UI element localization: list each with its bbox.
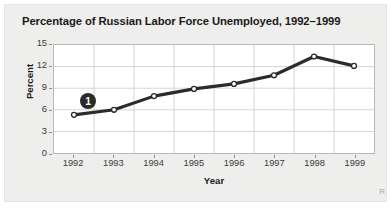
x-tick-mark [154, 155, 155, 158]
plot-area [53, 44, 375, 154]
data-series-line [54, 45, 374, 153]
y-tick-label: 3 [21, 126, 47, 136]
x-axis-label: Year [53, 175, 375, 186]
x-tick-label: 1995 [172, 158, 216, 168]
y-tick-label: 6 [21, 104, 47, 114]
y-tick-label: 9 [21, 82, 47, 92]
y-tick-mark [49, 88, 52, 89]
x-tick-label: 1998 [293, 158, 337, 168]
y-tick-label: 0 [21, 148, 47, 158]
y-tick-label: 12 [21, 60, 47, 70]
x-tick-label: 1994 [132, 158, 176, 168]
x-tick-label: 1999 [333, 158, 377, 168]
y-tick-label: 15 [21, 38, 47, 48]
x-tick-label: 1996 [212, 158, 256, 168]
x-tick-mark [73, 155, 74, 158]
y-tick-mark [49, 44, 52, 45]
corner-mark: R [379, 187, 385, 196]
y-tick-mark [49, 66, 52, 67]
y-tick-mark [49, 154, 52, 155]
y-tick-mark [49, 132, 52, 133]
x-tick-mark [355, 155, 356, 158]
chart-card: Percentage of Russian Labor Force Unempl… [4, 4, 387, 202]
y-tick-mark [49, 110, 52, 111]
x-tick-label: 1993 [91, 158, 135, 168]
x-tick-label: 1997 [252, 158, 296, 168]
x-tick-mark [274, 155, 275, 158]
x-tick-mark [315, 155, 316, 158]
x-tick-label: 1992 [51, 158, 95, 168]
x-tick-mark [234, 155, 235, 158]
chart-title: Percentage of Russian Labor Force Unempl… [22, 15, 372, 27]
x-tick-mark [194, 155, 195, 158]
x-tick-mark [113, 155, 114, 158]
chart-figure: Percentage of Russian Labor Force Unempl… [0, 0, 391, 214]
